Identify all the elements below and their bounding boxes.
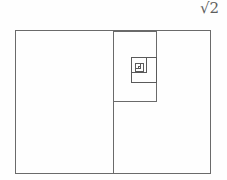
figure-root: √2 — [0, 0, 227, 180]
root-two-rectangle-diagram — [0, 0, 227, 180]
ratio-label: √2 — [200, 1, 219, 16]
